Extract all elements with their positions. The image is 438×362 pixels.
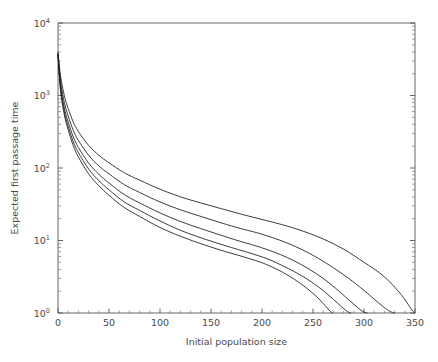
expected-first-passage-time-chart: 050100150200250300350100101102103104 Ini… [0, 0, 438, 362]
chart-page: 050100150200250300350100101102103104 Ini… [0, 0, 438, 362]
x-axis-title: Initial population size [186, 336, 287, 347]
x-ticklabel-2: 100 [151, 317, 169, 328]
x-ticklabel-7: 350 [406, 317, 424, 328]
x-ticklabel-6: 300 [355, 317, 373, 328]
y-axis-title: Expected first passage time [9, 101, 20, 234]
x-ticklabel-3: 150 [202, 317, 220, 328]
x-ticklabel-4: 200 [253, 317, 271, 328]
x-ticklabel-5: 250 [304, 317, 322, 328]
chart-background [0, 0, 438, 362]
x-ticklabel-0: 0 [55, 317, 61, 328]
x-ticklabel-1: 50 [103, 317, 115, 328]
